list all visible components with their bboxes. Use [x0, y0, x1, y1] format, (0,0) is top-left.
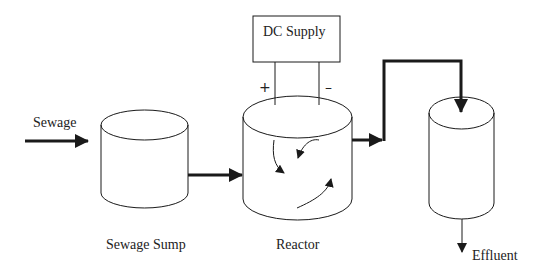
- reactor-cylinder: [243, 96, 352, 220]
- mixing-swirl-arrows: [273, 140, 331, 208]
- sewage-sump-label: Sewage Sump: [106, 237, 186, 253]
- sewage-sump-cylinder: [101, 110, 188, 208]
- reactor-to-settler-pipe: [352, 61, 461, 141]
- dc-supply-label: DC Supply: [263, 24, 326, 40]
- inlet-label: Sewage: [33, 115, 77, 131]
- negative-terminal-label: –: [325, 80, 332, 94]
- settler-cylinder: [429, 97, 494, 219]
- reactor-label: Reactor: [276, 237, 320, 253]
- process-flow-diagram: [0, 0, 540, 272]
- effluent-label: Effluent: [472, 248, 518, 264]
- positive-terminal-label: +: [259, 80, 271, 94]
